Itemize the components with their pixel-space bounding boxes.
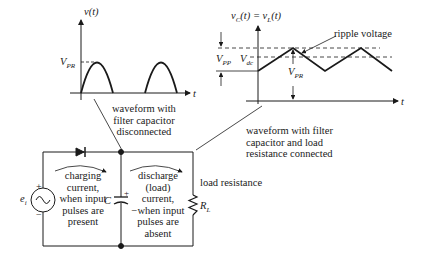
right-caption: waveform with filter capacitor and load …: [246, 125, 333, 160]
ripple-waveform: [258, 48, 392, 71]
load-resistance-label: load resistance: [200, 177, 262, 189]
left-caption: waveform with filter capacitor disconnec…: [112, 103, 176, 138]
left-x-axis-label: t: [193, 88, 196, 100]
resistor-label: RL: [200, 200, 210, 216]
junction-bottom: [119, 244, 124, 249]
vpr-label: VPR: [288, 66, 303, 82]
junction-top: [119, 150, 124, 155]
left-pulse-2: [145, 63, 177, 94]
vpp-label: VPP: [216, 53, 231, 69]
source-plus: +: [36, 181, 42, 193]
source-label: ei: [20, 193, 27, 209]
discharge-current-label: discharge (load) current, −when input pu…: [126, 170, 190, 239]
vdc-label: Vdc: [240, 53, 253, 69]
resistor-icon: [189, 195, 197, 215]
diode-icon: [76, 147, 85, 157]
charging-current-label: charging current, when input pulses are …: [52, 170, 114, 228]
left-pulse-1: [81, 63, 113, 94]
right-x-axis-label: t: [401, 96, 404, 108]
left-peak-label: VPR: [60, 56, 75, 72]
left-y-axis-label: v(t): [84, 6, 99, 18]
ripple-leader: [302, 36, 336, 53]
ripple-voltage-label: ripple voltage: [334, 28, 392, 40]
source-minus: −: [36, 209, 42, 221]
right-y-axis-label: vC(t) = vL(t): [231, 10, 281, 26]
